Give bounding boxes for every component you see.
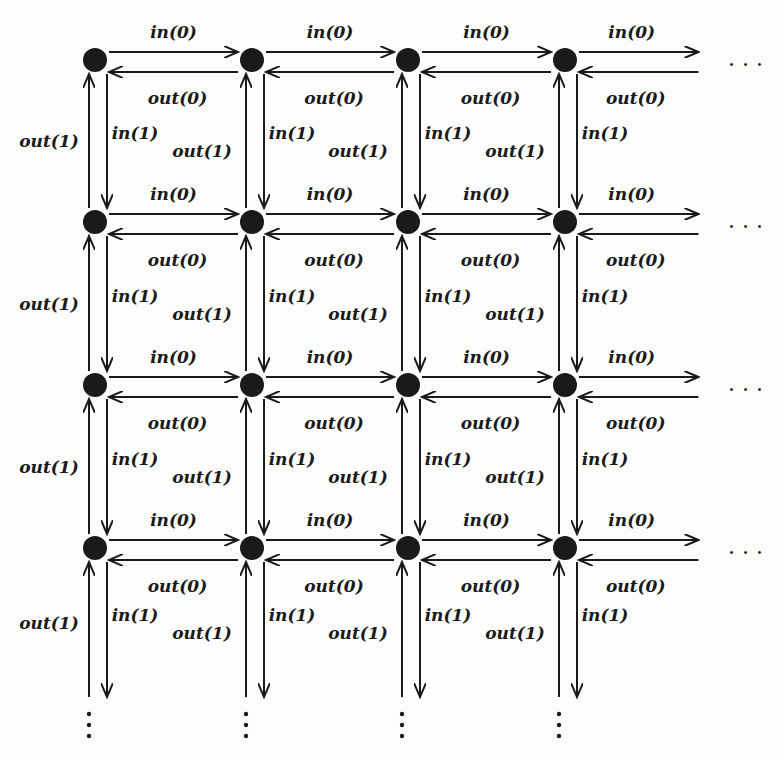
label-in0: in(0) — [150, 510, 197, 530]
grid-node — [396, 373, 420, 397]
label-out0: out(0) — [461, 576, 520, 596]
continuation-down-dot — [244, 734, 248, 738]
continuation-down-dot — [244, 712, 248, 716]
label-out1: out(1) — [328, 141, 387, 161]
label-out1: out(1) — [328, 304, 387, 324]
grid-node — [553, 210, 577, 234]
continuation-down-dot — [244, 723, 248, 727]
label-in1: in(1) — [112, 123, 159, 143]
label-out1: out(1) — [19, 613, 78, 633]
label-in0: in(0) — [463, 184, 510, 204]
label-out1: out(1) — [172, 141, 231, 161]
label-out0: out(0) — [148, 88, 207, 108]
continuation-right-dots: · · · — [728, 377, 763, 402]
label-in1: in(1) — [425, 605, 472, 625]
label-out1: out(1) — [172, 467, 231, 487]
label-out0: out(0) — [148, 576, 207, 596]
label-in0: in(0) — [608, 510, 655, 530]
label-in1: in(1) — [269, 286, 316, 306]
label-in0: in(0) — [307, 347, 354, 367]
label-out0: out(0) — [461, 413, 520, 433]
label-in1: in(1) — [425, 286, 472, 306]
label-in1: in(1) — [112, 449, 159, 469]
grid-node — [396, 48, 420, 72]
grid-node — [553, 48, 577, 72]
continuation-down-dot — [557, 712, 561, 716]
label-in0: in(0) — [307, 184, 354, 204]
label-out1: out(1) — [328, 467, 387, 487]
label-in0: in(0) — [463, 347, 510, 367]
grid-diagram: in(0)out(0)in(1)out(1)out(1)in(0)out(0)i… — [0, 0, 781, 761]
label-in1: in(1) — [269, 123, 316, 143]
grid-node — [83, 48, 107, 72]
grid-node — [240, 373, 264, 397]
label-in0: in(0) — [463, 510, 510, 530]
label-out1: out(1) — [485, 467, 544, 487]
label-in1: in(1) — [425, 449, 472, 469]
label-in0: in(0) — [150, 22, 197, 42]
diagram-svg: in(0)out(0)in(1)out(1)out(1)in(0)out(0)i… — [0, 0, 781, 761]
label-in1: in(1) — [269, 449, 316, 469]
label-in0: in(0) — [150, 184, 197, 204]
label-out0: out(0) — [606, 250, 665, 270]
grid-node — [240, 536, 264, 560]
label-in0: in(0) — [463, 22, 510, 42]
label-out1: out(1) — [19, 457, 78, 477]
grid-node — [553, 373, 577, 397]
label-out1: out(1) — [172, 623, 231, 643]
label-out0: out(0) — [304, 413, 363, 433]
continuation-right-dots: · · · — [728, 214, 763, 239]
label-in1: in(1) — [112, 286, 159, 306]
label-out1: out(1) — [19, 131, 78, 151]
label-in0: in(0) — [608, 22, 655, 42]
grid-node — [553, 536, 577, 560]
label-out1: out(1) — [485, 623, 544, 643]
label-in1: in(1) — [582, 449, 629, 469]
label-in1: in(1) — [425, 123, 472, 143]
label-out0: out(0) — [304, 576, 363, 596]
label-out0: out(0) — [304, 88, 363, 108]
grid-node — [240, 48, 264, 72]
label-in1: in(1) — [582, 123, 629, 143]
grid-node — [83, 373, 107, 397]
label-out0: out(0) — [304, 250, 363, 270]
label-out0: out(0) — [461, 88, 520, 108]
label-in1: in(1) — [582, 605, 629, 625]
label-out0: out(0) — [606, 413, 665, 433]
label-out0: out(0) — [148, 250, 207, 270]
continuation-down-dot — [557, 734, 561, 738]
label-in1: in(1) — [112, 605, 159, 625]
label-out0: out(0) — [606, 576, 665, 596]
label-in0: in(0) — [307, 510, 354, 530]
label-out1: out(1) — [328, 623, 387, 643]
label-out0: out(0) — [606, 88, 665, 108]
label-in0: in(0) — [608, 184, 655, 204]
label-out0: out(0) — [148, 413, 207, 433]
continuation-down-dot — [400, 734, 404, 738]
label-out1: out(1) — [485, 304, 544, 324]
label-out1: out(1) — [172, 304, 231, 324]
continuation-right-dots: · · · — [728, 540, 763, 565]
grid-node — [83, 210, 107, 234]
label-in1: in(1) — [269, 605, 316, 625]
label-out1: out(1) — [485, 141, 544, 161]
continuation-down-dot — [557, 723, 561, 727]
grid-node — [240, 210, 264, 234]
grid-node — [396, 536, 420, 560]
label-out1: out(1) — [19, 294, 78, 314]
grid-node — [396, 210, 420, 234]
label-in0: in(0) — [608, 347, 655, 367]
label-in0: in(0) — [150, 347, 197, 367]
continuation-down-dot — [87, 734, 91, 738]
continuation-down-dot — [87, 712, 91, 716]
continuation-down-dot — [87, 723, 91, 727]
continuation-right-dots: · · · — [728, 52, 763, 77]
continuation-down-dot — [400, 712, 404, 716]
continuation-down-dot — [400, 723, 404, 727]
label-in0: in(0) — [307, 22, 354, 42]
grid-node — [83, 536, 107, 560]
label-out0: out(0) — [461, 250, 520, 270]
label-in1: in(1) — [582, 286, 629, 306]
